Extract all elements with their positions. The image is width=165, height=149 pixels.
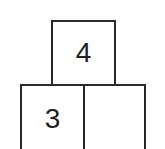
- cell-value: 3: [45, 103, 61, 135]
- pyramid-bottom-left-cell: 3: [20, 84, 85, 149]
- cell-value: 4: [76, 37, 92, 69]
- pyramid-bottom-right-cell: [83, 84, 146, 149]
- pyramid-top-cell: 4: [51, 20, 116, 86]
